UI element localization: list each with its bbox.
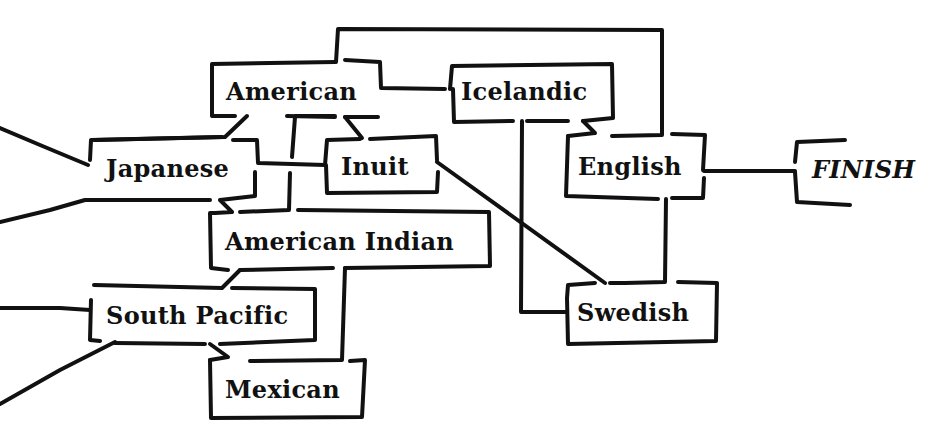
node-label-japanese: Japanese [106, 157, 229, 181]
node-label-inuit: Inuit [341, 155, 409, 179]
edge-left-to-south-pacific-bottom [0, 342, 115, 404]
node-label-swedish: Swedish [577, 301, 689, 325]
node-american-indian[interactable]: American Indian [211, 212, 489, 269]
node-mexican[interactable]: Mexican [211, 361, 364, 417]
node-finish[interactable]: FINISH [797, 142, 927, 204]
edge-left-to-japanese-top [0, 128, 88, 165]
edge-american-to-inuit [345, 117, 362, 138]
node-label-finish: FINISH [812, 158, 915, 182]
edge-left-to-japanese-bottom [0, 200, 210, 222]
node-south-pacific[interactable]: South Pacific [91, 288, 315, 343]
node-label-american-indian: American Indian [225, 230, 454, 254]
node-label-icelandic: Icelandic [461, 80, 587, 104]
node-label-mexican: Mexican [225, 378, 340, 402]
node-label-american: American [226, 80, 357, 104]
edge-english-to-swedish [625, 199, 666, 283]
edge-icelandic-to-english [568, 121, 595, 136]
edge-american-indian-to-south-pacific [94, 270, 240, 288]
node-label-south-pacific: South Pacific [106, 304, 288, 328]
node-swedish[interactable]: Swedish [568, 284, 716, 342]
edge-icelandic-to-swedish [521, 121, 567, 312]
node-icelandic[interactable]: Icelandic [452, 66, 612, 121]
node-english[interactable]: English [567, 136, 704, 198]
node-japanese[interactable]: Japanese [91, 140, 256, 198]
node-inuit[interactable]: Inuit [327, 139, 437, 193]
edge-left-to-south-pacific-top [0, 308, 90, 310]
node-american[interactable]: American [212, 64, 380, 116]
edge-south-pacific-to-mexican [210, 344, 228, 360]
node-label-english: English [578, 155, 682, 179]
